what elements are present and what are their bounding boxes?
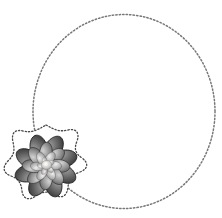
flower-sticker-group (4, 125, 87, 199)
frame-graphic-canvas: Round dotted frame with a shaded flower … (0, 0, 222, 218)
flower-core (41, 160, 51, 169)
decorative-frame-svg (0, 0, 222, 218)
